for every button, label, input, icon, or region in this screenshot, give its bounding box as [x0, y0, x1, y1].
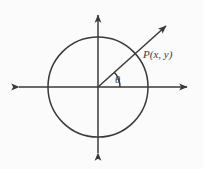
- angle-label: θ: [115, 74, 120, 85]
- point-label: P(x, y): [142, 48, 173, 61]
- unit-circle-figure: P(x, y) θ: [0, 0, 203, 169]
- unit-circle-diagram: P(x, y) θ: [0, 0, 203, 169]
